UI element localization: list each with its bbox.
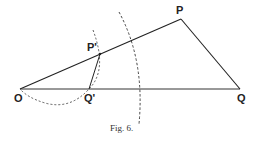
- figure-caption: Fig. 6.: [110, 123, 133, 133]
- geometry-figure: P P' O Q' Q Fig. 6.: [0, 0, 256, 141]
- label-o: O: [14, 92, 23, 104]
- label-pprime: P': [87, 41, 97, 53]
- line-p-q: [181, 19, 240, 89]
- label-q: Q: [237, 92, 246, 104]
- line-pprime-qprime: [89, 54, 100, 89]
- label-p: P: [176, 4, 183, 16]
- point-pprime: [99, 53, 101, 55]
- large-dashed-arc: [119, 12, 140, 124]
- label-qprime: Q': [84, 92, 96, 104]
